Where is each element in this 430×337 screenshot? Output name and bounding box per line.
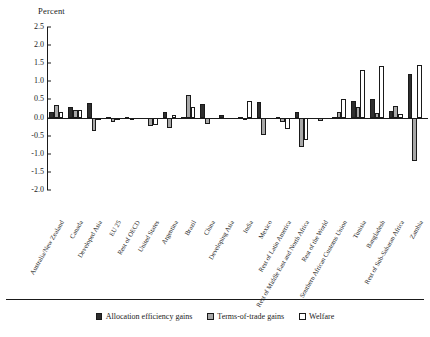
legend-item: Terms-of-trade gains [207,312,284,321]
x-axis-tick-label: Zambia [407,219,423,240]
x-axis-tick-label: India [241,219,254,234]
y-tick-label: 1.0 [34,77,44,85]
legend-swatch [96,313,103,320]
x-axis-tick-label: China [202,219,216,236]
bar [59,112,64,117]
bar [247,101,252,118]
x-axis-tick-label: EU 25 [107,219,122,237]
bar [87,103,92,117]
bar [200,104,205,118]
x-axis-tick-label: Rest of Sub-Saharan Africa [363,219,405,285]
bottom-divider [6,299,424,300]
x-axis-tick-label: Canada [68,219,84,240]
y-tick-label: 0.0 [34,114,44,122]
bar [153,118,158,125]
legend-swatch [207,313,214,320]
bar [408,74,413,117]
bar [285,118,290,130]
bar [417,65,422,118]
bar [412,118,417,161]
bar [261,118,266,135]
bar [219,115,224,117]
bars-layer [47,27,424,190]
chart-figure: Percent 2.52.01.51.00.50.0-0.5-1.0-1.5-2… [0,0,430,337]
plot-area: 2.52.01.51.00.50.0-0.5-1.0-1.5-2.0 Austr… [47,27,424,190]
y-tick-label: -1.0 [31,150,44,158]
y-tick-label: -1.5 [31,168,44,176]
y-tick-label: 2.0 [34,41,44,49]
bar [96,118,101,121]
bar [130,118,135,121]
bar [78,110,83,118]
y-axis-title: Percent [38,6,65,16]
x-axis-tick-label: Australia/New Zealand [29,219,66,276]
x-axis-tick-label: Brazil [183,219,197,236]
bar [257,102,262,117]
x-axis-tick-label: Tunisia [351,219,367,239]
bar [360,70,365,117]
bar [341,99,346,118]
y-tick-label: -0.5 [31,132,44,140]
bar [205,118,210,125]
bar [379,66,384,117]
y-tick-label: 1.5 [34,59,44,67]
bar [172,115,177,118]
y-tick-label: 0.5 [34,95,44,103]
bar [115,118,120,120]
bar [318,118,323,122]
x-axis-tick-label: Argentina [159,219,178,245]
bar [191,107,196,117]
legend-item: Welfare [299,312,334,321]
bar [304,118,309,140]
legend-swatch [299,313,306,320]
legend-item: Allocation efficiency gains [96,312,193,321]
bar [167,118,172,128]
legend-label: Allocation efficiency gains [106,312,193,321]
bar [398,114,403,118]
x-axis-tick-label: Mexico [257,219,273,240]
chart-legend: Allocation efficiency gainsTerms-of-trad… [0,312,430,321]
legend-label: Terms-of-trade gains [217,312,284,321]
legend-label: Welfare [309,312,334,321]
y-tick-label: 2.5 [34,23,44,31]
y-tick-label: -2.0 [31,186,44,194]
bar [243,118,248,120]
